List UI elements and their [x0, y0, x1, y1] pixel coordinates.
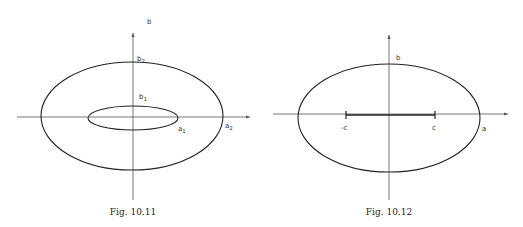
caption-fig-10-11: Fig. 10.11 — [110, 207, 156, 217]
label-a1: a1 — [178, 125, 186, 134]
label-c: c — [432, 124, 436, 132]
figure-10-11: b b2 b1 a1 a2 Fig. 10.11 — [17, 18, 250, 217]
label-b2: b2 — [137, 55, 145, 64]
axis-label-b: b — [147, 18, 152, 26]
label-b1: b1 — [139, 93, 147, 102]
outer-ellipse — [41, 62, 223, 170]
caption-fig-10-12: Fig. 10.12 — [366, 207, 412, 217]
label-a2: a2 — [225, 122, 233, 131]
label-neg-c: -c — [341, 124, 348, 132]
label-b: b — [396, 54, 401, 62]
figure-10-12: b a c -c Fig. 10.12 — [273, 35, 508, 217]
label-a: a — [482, 125, 486, 133]
diagram-canvas: b b2 b1 a1 a2 Fig. 10.11 b a c -c Fig. 1… — [0, 0, 523, 227]
